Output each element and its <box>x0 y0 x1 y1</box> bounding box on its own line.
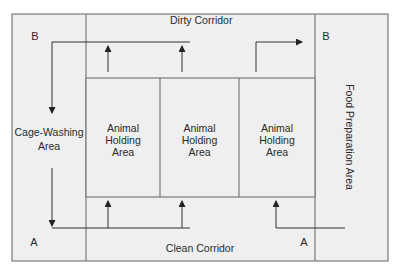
holding-area-2-label-line1: Animal <box>160 122 239 134</box>
dirty-corridor-label: Dirty Corridor <box>170 14 232 26</box>
marker-a-bottom-left: A <box>28 236 40 248</box>
food-preparation-label: Food Preparation Area <box>344 84 356 190</box>
clean-corridor-label: Clean Corridor <box>160 242 240 254</box>
holding-area-1-label-line3: Area <box>86 146 160 158</box>
marker-a-bottom-right: A <box>298 236 310 248</box>
holding-area-3-label-line1: Animal <box>239 122 315 134</box>
holding-area-2-label-line2: Holding <box>160 134 239 146</box>
marker-b-top-left: B <box>29 30 41 42</box>
marker-b-top-right: B <box>320 30 332 42</box>
holding-area-2-label-line3: Area <box>160 146 239 158</box>
holding-area-3-label-line3: Area <box>239 146 315 158</box>
cage-washing-label-line1: Cage-Washing <box>12 126 86 138</box>
holding-area-1-label-line2: Holding <box>86 134 160 146</box>
holding-area-3-label-line2: Holding <box>239 134 315 146</box>
holding-area-1-label-line1: Animal <box>86 122 160 134</box>
cage-washing-label-line2: Area <box>12 140 86 152</box>
facility-diagram: Dirty Corridor Clean Corridor Cage-Washi… <box>0 0 397 267</box>
